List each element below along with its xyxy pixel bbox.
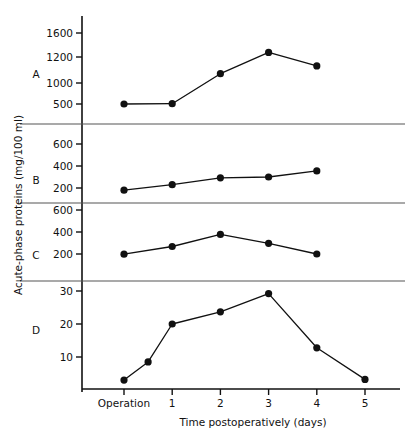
- data-point: B — 3: 300: [265, 173, 272, 180]
- data-point: D — 5: 3.2: [361, 376, 368, 383]
- y-tick-label: 20: [60, 318, 73, 330]
- x-axis-title: Time postoperatively (days): [178, 416, 326, 428]
- series-line-d: [124, 294, 365, 381]
- y-tick-label: 200: [53, 182, 73, 194]
- data-point: D — 1: 20: [169, 320, 176, 327]
- data-point: D — 4: 12.8: [313, 344, 320, 351]
- data-point: D — 3: 29.2: [265, 290, 272, 297]
- data-point: A — 4: 1090: [313, 62, 320, 69]
- data-point: D — 2: 23.7: [217, 308, 224, 315]
- x-tick-label: Operation: [98, 397, 150, 409]
- data-point: B — Operation: 180: [120, 187, 127, 194]
- panel-c: C600400200C — Operation: 198C — 1: 268C …: [20, 204, 405, 281]
- x-tick-label: 3: [265, 397, 272, 409]
- data-point: A — Operation: 500: [120, 100, 127, 107]
- y-axis-title: Acute-phase proteins (mg/100 ml): [12, 115, 24, 295]
- x-tick-label: 1: [169, 397, 176, 409]
- panel-letter-b: B: [32, 174, 39, 186]
- data-point: C — Operation: 198: [120, 251, 127, 258]
- panel-letter-c: C: [32, 249, 39, 261]
- data-point: A — 3: 1300: [265, 49, 272, 56]
- panel-letter-d: D: [32, 324, 40, 336]
- data-point: A — 1: 505: [169, 100, 176, 107]
- data-point: C — 2: 378: [217, 231, 224, 238]
- y-tick-label: 500: [53, 98, 73, 110]
- data-point: A — 2: 970: [217, 70, 224, 77]
- panel-letter-a: A: [32, 68, 40, 80]
- y-tick-label: 400: [53, 226, 73, 238]
- y-tick-label: 600: [53, 138, 73, 150]
- data-point: B — 1: 230: [169, 181, 176, 188]
- x-tick-label: 4: [313, 397, 320, 409]
- data-point: B — 2: 293: [217, 174, 224, 181]
- data-point: D — Operation: 3: [120, 377, 127, 384]
- panel-b: B600400200B — Operation: 180B — 1: 230B …: [20, 138, 405, 203]
- data-point: B — 4: 355: [313, 167, 320, 174]
- y-tick-label: 10: [60, 351, 73, 363]
- multi-panel-line-chart: A160012001000500A — Operation: 500A — 1:…: [0, 0, 413, 444]
- y-tick-label: 1200: [46, 51, 73, 63]
- x-tick-label: 2: [217, 397, 224, 409]
- series-line-a: [124, 52, 317, 104]
- data-point: C — 4: 200: [313, 250, 320, 257]
- y-tick-label: 400: [53, 160, 73, 172]
- y-tick-label: 30: [60, 285, 73, 297]
- data-point: C — 1: 268: [169, 243, 176, 250]
- x-axis-ticks: Operation12345: [98, 389, 368, 409]
- acute-phase-protein-figure: A160012001000500A — Operation: 500A — 1:…: [0, 0, 413, 444]
- y-tick-label: 1600: [46, 27, 73, 39]
- data-point: D — 0.5: 8.5: [145, 358, 152, 365]
- data-point: C — 3: 297: [265, 240, 272, 247]
- x-tick-label: 5: [362, 397, 369, 409]
- panel-a: A160012001000500A — Operation: 500A — 1:…: [20, 27, 405, 124]
- y-tick-label: 1000: [46, 77, 73, 89]
- y-tick-label: 200: [53, 248, 73, 260]
- y-tick-label: 600: [53, 204, 73, 216]
